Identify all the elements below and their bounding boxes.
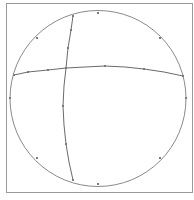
horizontal-arc-marker [182,75,184,77]
circle-marker [185,97,187,99]
circle-markers [9,12,187,185]
circle-marker [36,157,38,159]
circle-marker [159,157,161,159]
circle-marker [97,183,99,185]
horizontal-arc-marker [65,67,67,69]
vertical-arc [63,16,73,180]
circle-marker [36,37,38,39]
circle-marker [9,97,11,99]
vertical-arc-marker [62,105,64,107]
horizontal-arc-marker [13,74,15,76]
vertical-arc-marker [65,143,67,145]
horizontal-arc-marker [104,65,106,67]
horizontal-arc-marker [143,68,145,70]
vertical-arc-marker [72,179,74,181]
circle-marker [159,37,161,39]
vertical-arc-marker [70,29,72,31]
horizontal-arc-marker [27,71,29,73]
diagram-canvas [0,0,194,200]
outer-circle [10,11,186,187]
horizontal-arc [14,66,183,76]
circle-marker [97,12,99,14]
vertical-arc-marker [72,15,74,17]
horizontal-arc-marker [47,69,49,71]
diagram-frame [7,4,193,193]
vertical-arc-marker [67,47,69,49]
diagram-svg [0,0,194,200]
